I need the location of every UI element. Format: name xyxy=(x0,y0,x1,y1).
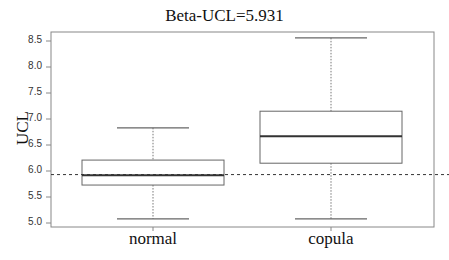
box-group xyxy=(82,38,402,219)
box-normal xyxy=(82,128,224,219)
x-axis-ticks xyxy=(153,227,331,231)
box-copula xyxy=(260,38,402,219)
y-axis-ticks xyxy=(46,41,51,223)
plot-frame xyxy=(51,32,434,227)
iqr-box xyxy=(82,160,224,185)
plot-area xyxy=(0,0,449,260)
iqr-box xyxy=(260,111,402,163)
